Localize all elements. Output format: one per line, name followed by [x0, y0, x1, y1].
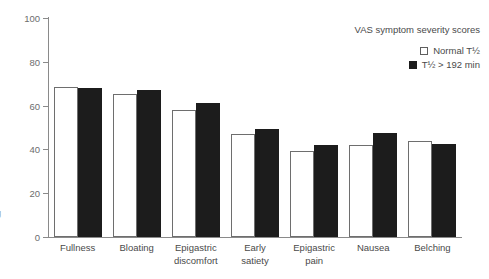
bar-delayed [432, 144, 456, 237]
bar-normal [290, 151, 314, 238]
x-axis-category-labels: FullnessBloatingEpigastricdiscomfortEarl… [48, 241, 462, 279]
bar-delayed [373, 133, 397, 237]
bar-normal [408, 141, 432, 237]
bar-normal [349, 145, 373, 237]
chart-legend: VAS symptom severity scores Normal T½ T½… [300, 24, 480, 73]
y-axis-tick [43, 237, 48, 238]
category-label-line1: Belching [414, 242, 450, 253]
legend-title: VAS symptom severity scores [300, 24, 480, 35]
bar-delayed [314, 145, 338, 237]
x-axis-category-label: Epigastricdiscomfort [166, 241, 225, 267]
category-label-line1: Nausea [357, 242, 390, 253]
y-axis-label: 80 [0, 56, 40, 67]
bar-normal [172, 110, 196, 237]
legend-item-normal: Normal T½ [300, 45, 480, 56]
category-label-line2: discomfort [166, 254, 225, 267]
category-label-line1: Epigastric [175, 242, 217, 253]
bar-delayed [255, 129, 279, 237]
bar-delayed [78, 88, 102, 237]
x-axis-category-label: Fullness [48, 241, 107, 254]
x-axis-category-label: Epigastricpain [285, 241, 344, 267]
x-axis-category-label: Nausea [344, 241, 403, 254]
x-axis-line [48, 237, 462, 238]
y-axis-label: 100 [0, 13, 40, 24]
legend-swatch-open-icon [420, 47, 428, 55]
legend-label-normal: Normal T½ [433, 45, 480, 56]
x-axis-category-label: Belching [403, 241, 462, 254]
bar-normal [231, 134, 255, 237]
x-axis-category-label: Bloating [107, 241, 166, 254]
category-label-line2: pain [285, 254, 344, 267]
y-axis-label: 0 [0, 232, 40, 243]
legend-swatch-filled-icon [409, 61, 417, 69]
y-axis-label: 60 [0, 100, 40, 111]
category-label-line1: Early [244, 242, 266, 253]
category-label-line1: Bloating [120, 242, 154, 253]
category-label-line1: Fullness [60, 242, 95, 253]
category-label-line1: Epigastric [293, 242, 335, 253]
legend-item-delayed: T½ > 192 min [300, 59, 480, 70]
y-axis-label: 20 [0, 188, 40, 199]
bar-normal [54, 87, 78, 237]
bar-delayed [137, 90, 161, 237]
y-axis-label: 40 [0, 144, 40, 155]
legend-label-delayed: T½ > 192 min [422, 59, 480, 70]
bar-chart-figure: g 020406080100 FullnessBloatingEpigastri… [0, 0, 489, 279]
category-label-line2: satiety [225, 254, 284, 267]
x-axis-category-label: Earlysatiety [225, 241, 284, 267]
clipped-edge-label: g [0, 208, 1, 218]
bar-delayed [196, 103, 220, 237]
bar-normal [113, 94, 137, 237]
